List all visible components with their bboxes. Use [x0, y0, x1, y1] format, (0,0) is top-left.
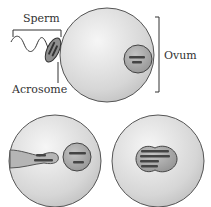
ovum-bracket [155, 17, 159, 92]
sperm [11, 36, 64, 65]
ovum-cell [60, 8, 154, 102]
sperm-bracket [13, 30, 61, 37]
stage-3-cell [112, 115, 204, 207]
sperm-label: Sperm [23, 12, 60, 25]
sperm-tail [11, 36, 48, 51]
stage-2-ovum-nucleus [63, 143, 91, 171]
ovum-label: Ovum [164, 49, 197, 62]
fertilization-diagram: Ovum Sperm Acrosome [0, 0, 211, 207]
stage-2-cell [9, 115, 101, 207]
ovum-nucleus [124, 45, 152, 73]
acrosome-label: Acrosome [11, 83, 67, 96]
